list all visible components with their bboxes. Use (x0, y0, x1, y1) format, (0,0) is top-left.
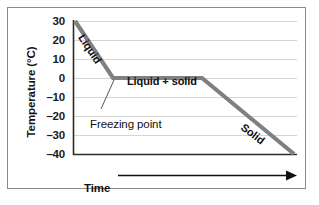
y-tick-30: 30 (35, 16, 65, 28)
y-tick-minus-10: –10 (35, 92, 65, 104)
y-tick-0: 0 (35, 73, 65, 85)
y-tick-minus-40: –40 (35, 149, 65, 161)
time-arrow-head (286, 171, 297, 181)
y-tick-20: 20 (35, 35, 65, 47)
y-tick-minus-20: –20 (35, 111, 65, 123)
x-axis-title: Time (84, 182, 110, 194)
figure-canvas: 30 20 10 0 –10 –20 –30 –40 Temperature (… (0, 0, 319, 205)
annotation-freezing-point: Freezing point (90, 118, 161, 130)
y-tick-10: 10 (35, 54, 65, 66)
chart-frame: 30 20 10 0 –10 –20 –30 –40 Temperature (… (7, 7, 306, 189)
region-label-liquid-plus-solid: Liquid + solid (127, 75, 197, 87)
freezing-point-leader-line (101, 80, 114, 109)
y-tick-minus-30: –30 (35, 130, 65, 142)
time-arrow (118, 171, 297, 181)
y-axis-title: Temperature (°C) (25, 27, 37, 157)
